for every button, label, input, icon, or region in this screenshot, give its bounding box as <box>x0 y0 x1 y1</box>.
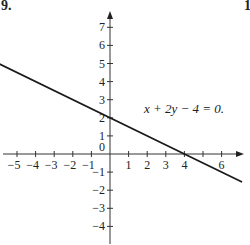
graph-figure: 9. 1 −5−4−3−2−11234676543210−1−2−3−4x + … <box>0 0 250 245</box>
x-tick-label: 3 <box>163 158 169 172</box>
y-tick-label: −1 <box>92 165 105 179</box>
y-tick-label: 7 <box>99 20 105 34</box>
x-tick-label: −5 <box>8 158 21 172</box>
x-tick-label: −4 <box>26 158 39 172</box>
x-tick-label: −3 <box>45 158 58 172</box>
x-tick-label: 1 <box>126 158 132 172</box>
equation-label: x + 2y − 4 = 0. <box>143 101 224 116</box>
x-axis-arrow-icon <box>236 151 244 157</box>
y-tick-label: 6 <box>99 38 105 52</box>
origin-label: 0 <box>99 140 105 154</box>
x-tick-label: 4 <box>181 158 187 172</box>
y-tick-label: −3 <box>92 201 105 215</box>
y-tick-label: −4 <box>92 219 105 233</box>
line-plot: −5−4−3−2−11234676543210−1−2−3−4x + 2y − … <box>0 0 250 245</box>
y-axis-arrow-icon <box>107 11 113 19</box>
y-tick-label: 4 <box>99 75 105 89</box>
y-tick-label: 5 <box>99 57 105 71</box>
problem-number: 9. <box>1 0 12 14</box>
y-tick-label: −2 <box>92 183 105 197</box>
x-tick-label: −2 <box>63 158 76 172</box>
x-tick-label: 6 <box>219 158 225 172</box>
next-problem-number: 1 <box>244 0 250 14</box>
y-tick-label: 3 <box>99 93 105 107</box>
x-tick-label: 2 <box>144 158 150 172</box>
